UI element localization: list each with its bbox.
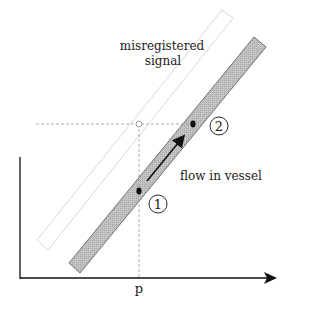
- point-2-label: 2: [210, 117, 228, 135]
- point-2-dot: [190, 121, 195, 128]
- flow-arrow-icon: [147, 137, 183, 181]
- diagram-canvas: 2 1 misregistered signal flow in vessel …: [0, 0, 315, 313]
- x-tick-label: p: [135, 281, 143, 296]
- svg-text:2: 2: [215, 119, 223, 134]
- point-1-dot: [136, 188, 141, 195]
- misregistered-point: [136, 121, 142, 127]
- flow-label: flow in vessel: [180, 169, 262, 183]
- misregistered-label-line2: signal: [145, 54, 182, 68]
- svg-text:1: 1: [154, 197, 162, 212]
- point-1-label: 1: [149, 195, 167, 213]
- misregistered-label-line1: misregistered: [120, 39, 205, 53]
